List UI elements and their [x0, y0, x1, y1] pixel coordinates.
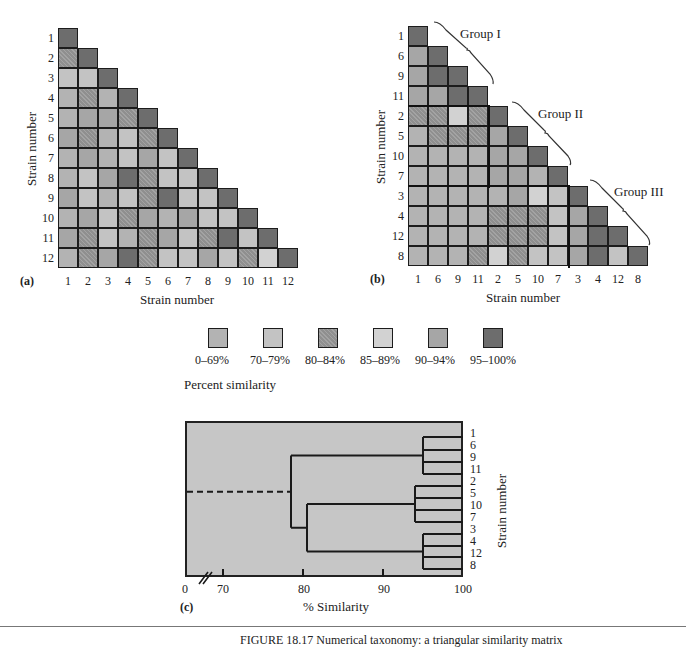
caption-divider [0, 626, 686, 627]
brace-group-2 [512, 102, 571, 165]
brace-group-3 [590, 180, 650, 245]
leaf-label: 8 [470, 558, 492, 573]
group-braces [0, 0, 686, 300]
legend-swatch [263, 328, 283, 348]
legend-swatch [483, 328, 503, 348]
legend-swatch [318, 328, 338, 348]
x-tick-label: 90 [369, 582, 399, 597]
dendrogram [0, 400, 686, 600]
legend-label: 90–94% [415, 353, 455, 368]
y-axis-title-c: Strain number [494, 474, 510, 548]
x-tick-label: 100 [448, 582, 478, 597]
legend-label: 95–100% [470, 353, 516, 368]
x-tick-label: 80 [289, 582, 319, 597]
legend-label: 85–89% [360, 353, 400, 368]
legend-label: 80–84% [305, 353, 345, 368]
legend-swatch [373, 328, 393, 348]
legend-label: 0–69% [195, 353, 229, 368]
legend-swatch [428, 328, 448, 348]
panel-label-c: (c) [180, 600, 193, 615]
x-tick-label: 0 [170, 582, 200, 597]
legend-swatch [208, 328, 228, 348]
x-axis-title-c: % Similarity [303, 599, 369, 615]
figure-caption: FIGURE 18.17 Numerical taxonomy: a trian… [240, 633, 563, 648]
legend-label: 70–79% [250, 353, 290, 368]
legend-title: Percent similarity [184, 377, 276, 393]
x-tick-label: 70 [208, 582, 238, 597]
brace-group-1 [434, 22, 493, 84]
